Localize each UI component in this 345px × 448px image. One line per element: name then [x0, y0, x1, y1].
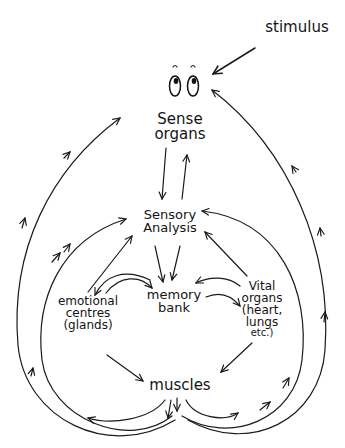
- edge-muscles-to-right: [186, 400, 238, 418]
- node-muscles: muscles: [149, 378, 210, 393]
- node-emotional-centres: emotional centres (glands): [58, 295, 118, 331]
- edge-memory-to-vital: [206, 294, 240, 306]
- sensory-analysis-label-line2: Analysis: [143, 221, 197, 234]
- emotional-centres-label-line3: (glands): [58, 319, 118, 331]
- node-sense-organs: Sense organs: [154, 112, 205, 142]
- edge-emotional-to-muscles: [107, 355, 143, 381]
- sense-organs-label-line2: organs: [154, 127, 205, 142]
- node-sensory-analysis: Sensory Analysis: [143, 208, 197, 234]
- edge-analysis-to-memory-2: [172, 246, 180, 280]
- edge-emotional-to-analysis: [88, 236, 132, 292]
- vital-organs-label-line5: etc.): [242, 328, 283, 338]
- node-vital-organs: Vital organs (heart, lungs etc.): [242, 280, 283, 338]
- edge-memory-to-emotional: [95, 274, 150, 295]
- stimulus-label: stimulus: [265, 20, 328, 35]
- node-memory-bank: memory bank: [147, 288, 201, 314]
- memory-bank-label-line2: bank: [147, 301, 201, 314]
- edge-vital-to-memory: [196, 278, 240, 286]
- edge-analysis-to-memory-1: [155, 246, 163, 282]
- node-stimulus: stimulus: [265, 20, 328, 35]
- edge-muscles-to-left: [88, 400, 165, 421]
- edge-analysis-to-sense: [182, 155, 187, 199]
- eyes-icon: [170, 66, 199, 97]
- edge-muscles-down-2: [168, 400, 171, 418]
- edge-vital-to-muscles: [221, 343, 252, 372]
- edge-vital-to-analysis: [205, 232, 247, 276]
- edge-emotional-to-memory: [106, 279, 152, 293]
- edge-stimulus-to-sense-organs: [213, 48, 255, 74]
- muscles-label: muscles: [149, 378, 210, 393]
- edge-sense-to-analysis: [162, 148, 166, 199]
